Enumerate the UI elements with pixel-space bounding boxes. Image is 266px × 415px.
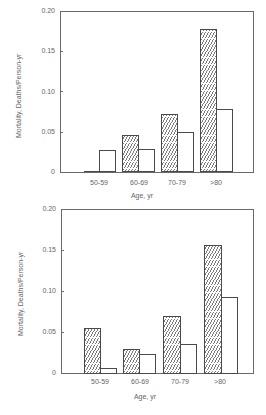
bar-hatched-over-80 bbox=[204, 245, 222, 374]
bar-open-50-59 bbox=[100, 368, 117, 374]
y-axis-title: Mortality, Deaths/Person-yr bbox=[17, 252, 25, 336]
y-tick-label: 0.15 bbox=[32, 246, 56, 254]
x-axis-title: Age, yr bbox=[115, 393, 175, 401]
bar-hatched-50-59 bbox=[84, 328, 101, 374]
y-tick bbox=[61, 291, 64, 292]
bar-hatched-60-69 bbox=[123, 349, 140, 374]
y-tick-label: 0 bbox=[32, 369, 56, 377]
y-tick-label: 0.10 bbox=[32, 287, 56, 295]
x-category-label: 60-69 bbox=[123, 378, 157, 386]
x-category-label: 50-59 bbox=[83, 378, 117, 386]
bar-hatched-70-79 bbox=[163, 316, 181, 374]
bar-open-over-80 bbox=[221, 297, 238, 374]
y-tick-label: 0.05 bbox=[32, 328, 56, 336]
bottom-mortality-chart: Mortality, Deaths/Person-yr 0.20 0.15 0.… bbox=[0, 0, 266, 415]
x-category-label: >80 bbox=[203, 378, 237, 386]
bar-open-60-69 bbox=[139, 354, 156, 374]
bar-open-70-79 bbox=[180, 344, 197, 374]
y-tick bbox=[61, 250, 64, 251]
y-tick bbox=[61, 332, 64, 333]
x-category-label: 70-79 bbox=[163, 378, 197, 386]
y-tick-label: 0.20 bbox=[32, 205, 56, 213]
